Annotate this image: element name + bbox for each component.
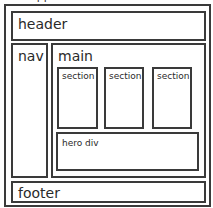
footer-box: footer	[11, 181, 206, 203]
section-box-3: section	[152, 67, 192, 129]
app-label: app	[30, 0, 51, 3]
section-label-3: section	[157, 71, 189, 82]
section-label-1: section	[62, 71, 94, 82]
footer-label: footer	[18, 184, 60, 202]
header-box: header	[11, 11, 206, 41]
section-box-2: section	[104, 67, 144, 129]
nav-label: nav	[18, 47, 44, 65]
hero-box: hero div	[56, 132, 199, 171]
section-label-2: section	[109, 71, 141, 82]
nav-box: nav	[11, 43, 48, 178]
hero-label: hero div	[62, 138, 99, 149]
header-label: header	[18, 15, 67, 33]
main-label: main	[58, 47, 93, 65]
section-box-1: section	[57, 67, 98, 129]
